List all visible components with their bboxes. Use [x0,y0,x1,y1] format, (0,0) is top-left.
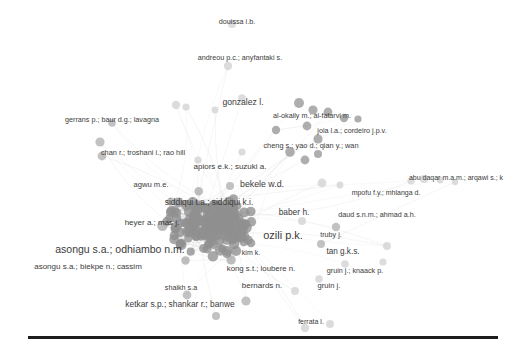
graph-node[interactable] [332,223,340,231]
graph-node[interactable] [172,101,180,109]
graph-node[interactable] [208,214,218,224]
graph-node[interactable] [244,235,253,244]
graph-node[interactable] [291,287,299,295]
graph-node[interactable] [98,152,107,161]
graph-edge [251,152,290,243]
graph-node[interactable] [337,182,344,189]
node-group [95,20,458,332]
graph-node[interactable] [285,147,295,157]
edge-group [100,66,455,328]
graph-node[interactable] [452,179,458,185]
graph-node[interactable] [407,177,414,184]
graph-node[interactable] [189,210,199,220]
graph-node[interactable] [199,229,210,240]
graph-node[interactable] [272,126,280,134]
graph-node[interactable] [383,242,391,250]
graph-node[interactable] [314,150,322,158]
graph-edge [206,98,242,209]
graph-node[interactable] [223,246,233,256]
graph-node[interactable] [204,240,212,248]
graph-node[interactable] [294,98,304,108]
graph-node[interactable] [326,320,334,328]
graph-edge [186,260,232,261]
graph-node[interactable] [167,206,176,215]
graph-node[interactable] [354,115,361,122]
graph-node[interactable] [176,219,185,228]
graph-node[interactable] [212,107,219,114]
graph-node[interactable] [177,239,186,248]
graph-node[interactable] [301,324,309,332]
graph-node[interactable] [301,156,310,165]
graph-node[interactable] [231,215,241,225]
graph-node[interactable] [227,233,238,244]
graph-node[interactable] [437,177,444,184]
graph-node[interactable] [318,179,327,188]
graph-node[interactable] [183,291,192,300]
graph-edge [241,235,305,328]
graph-node[interactable] [315,275,323,283]
graph-node[interactable] [298,217,306,225]
graph-node[interactable] [182,103,189,110]
graph-edge [234,211,387,246]
figure-baseline-rule [28,336,498,339]
graph-edge [318,119,358,154]
graph-node[interactable] [379,258,386,265]
graph-node[interactable] [187,248,195,256]
graph-edge [171,107,187,212]
graph-node[interactable] [181,256,189,264]
graph-node[interactable] [194,156,201,163]
graph-edge [321,182,455,244]
graph-node[interactable] [226,182,234,190]
graph-node[interactable] [212,312,220,320]
graph-node[interactable] [238,148,245,155]
graph-node[interactable] [162,217,171,226]
graph-node[interactable] [241,219,250,228]
graph-node[interactable] [239,208,249,218]
graph-node[interactable] [238,94,246,102]
graph-node[interactable] [194,187,203,196]
graph-node[interactable] [241,296,250,305]
graph-node[interactable] [303,122,312,131]
graph-node[interactable] [191,222,200,231]
graph-node[interactable] [420,175,428,183]
graph-node[interactable] [317,240,325,248]
graph-node[interactable] [224,62,232,70]
graph-node[interactable] [341,260,349,268]
graph-edge [234,244,295,291]
graph-node[interactable] [95,137,104,146]
graph-edge [234,160,306,199]
graph-node[interactable] [173,197,183,207]
graph-node[interactable] [324,108,333,117]
graph-node[interactable] [313,134,322,143]
graph-node[interactable] [308,105,317,114]
network-figure: douissa i.b.andreou p.c.; anyfantaki s.g… [0,0,526,352]
network-graph-canvas [0,0,526,352]
graph-node[interactable] [228,20,236,28]
graph-node[interactable] [108,119,116,127]
graph-node[interactable] [340,114,348,122]
graph-node[interactable] [209,200,219,210]
